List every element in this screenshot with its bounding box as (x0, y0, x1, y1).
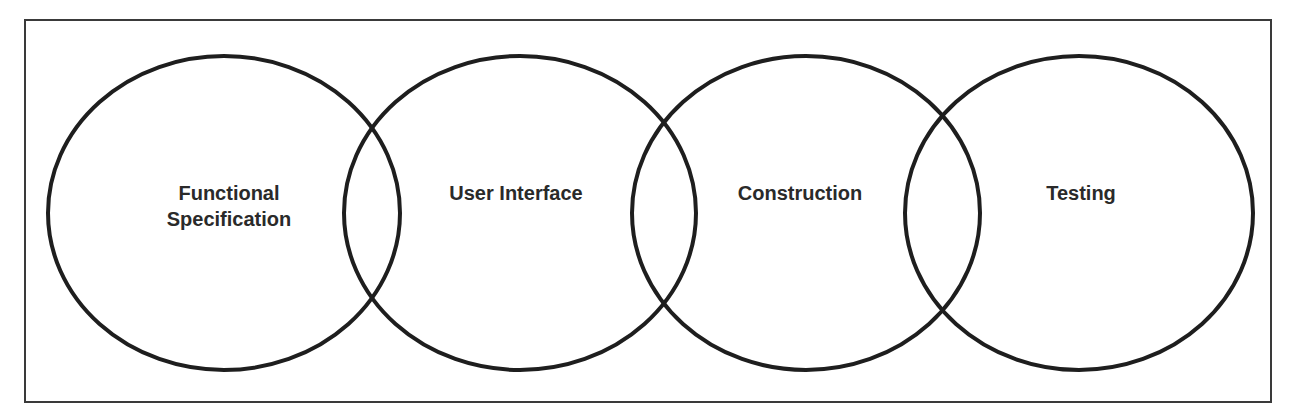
phase-label-construction: Construction (738, 180, 862, 206)
phase-label-line1: Testing (1046, 180, 1116, 206)
phase-label-user-interface: User Interface (449, 180, 582, 206)
phase-label-line1: Functional (167, 180, 291, 206)
phase-label-line1: Construction (738, 180, 862, 206)
phase-label-functional-specification: Functional Specification (167, 180, 291, 232)
phase-circle-user-interface (344, 56, 696, 370)
phase-label-line1: User Interface (449, 180, 582, 206)
phase-label-line2: Specification (167, 206, 291, 232)
phase-circle-construction (632, 56, 980, 370)
phase-label-testing: Testing (1046, 180, 1116, 206)
phase-circle-testing (905, 56, 1253, 370)
